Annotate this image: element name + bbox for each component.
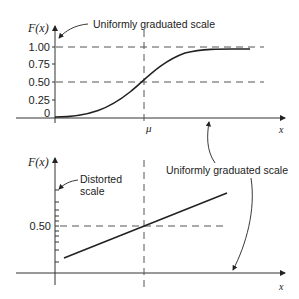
- tick-label-1: 1.00: [29, 41, 50, 53]
- tick-label-075: 0.75: [29, 58, 50, 70]
- arrow-to-bottom-x-axis: [233, 178, 252, 270]
- distorted-label-line2: scale: [80, 185, 105, 197]
- top-ylabel: F(x): [27, 21, 49, 35]
- arrow-to-top-x-axis: [208, 122, 215, 163]
- distorted-arrow: [59, 180, 78, 189]
- bottom-annotation-right: Uniformly graduated scale: [166, 164, 288, 176]
- top-xlabel: x: [278, 124, 284, 135]
- top-plot: 1.00 0.75 0.50 0.25 0 F(x) μ x Uniformly…: [16, 18, 285, 135]
- bottom-ylabel: F(x): [27, 155, 49, 169]
- bottom-xlabel: x: [278, 281, 284, 292]
- distorted-label-line1: Distorted: [80, 173, 122, 185]
- distorted-ticks: [55, 190, 59, 262]
- mu-label: μ: [145, 122, 152, 134]
- top-annotation: Uniformly graduated scale: [93, 18, 215, 30]
- top-annotation-arrow: [59, 24, 88, 38]
- cdf-curve: [55, 49, 250, 117]
- tick-label-025: 0.25: [29, 94, 50, 106]
- tick-label-050: 0.50: [29, 76, 50, 88]
- tick-label-0: 0: [44, 107, 50, 119]
- cdf-probability-paper-diagram: 1.00 0.75 0.50 0.25 0 F(x) μ x Uniformly…: [0, 0, 299, 299]
- bottom-plot: 0.50 F(x) x Distorted scale Uniformly gr…: [16, 122, 288, 292]
- bottom-tick-label-050: 0.50: [30, 220, 51, 232]
